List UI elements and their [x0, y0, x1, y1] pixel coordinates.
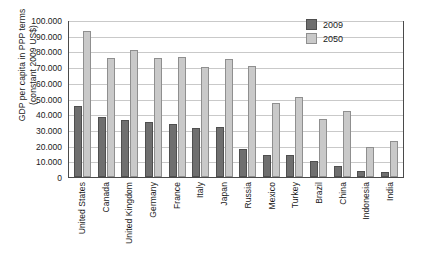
x-axis-tick-label: Italy: [195, 182, 205, 198]
x-axis-tick-label: Japan: [219, 182, 229, 206]
y-axis-tick-20000: 20.000: [36, 142, 62, 152]
x-axis-tick-cell: United Kingdom: [117, 180, 141, 262]
legend-label-2050: 2050: [323, 34, 343, 44]
bar-2050: [272, 103, 280, 177]
bar-2050: [225, 59, 233, 177]
x-axis-tick-label: Mexico: [267, 182, 277, 210]
bar-2009: [74, 106, 82, 177]
bar-2050: [319, 119, 327, 177]
y-axis-tick-50000: 50.000: [36, 95, 62, 105]
bar-2050: [107, 58, 115, 177]
bar-group: [142, 21, 166, 177]
bar-2009: [121, 120, 129, 177]
bar-2050: [201, 67, 209, 177]
x-axis-tick-label: United States: [77, 182, 87, 234]
y-axis-tick-labels: 010.00020.00030.00040.00050.00060.00070.…: [0, 21, 66, 178]
bar-2050: [83, 31, 91, 177]
legend-swatch-2050: [306, 33, 317, 44]
x-axis-tick-cell: Indonesia: [355, 180, 379, 262]
x-axis-tick-cell: Mexico: [260, 180, 284, 262]
x-axis-tick-label: France: [172, 182, 182, 209]
x-axis-tick-label: Germany: [148, 182, 158, 218]
y-axis-tick-40000: 40.000: [36, 110, 62, 120]
bar-2009: [357, 171, 365, 177]
bar-group: [283, 21, 307, 177]
x-axis-tick-label: Brazil: [314, 182, 324, 204]
x-axis-tick-cell: Japan: [212, 180, 236, 262]
bar-2050: [130, 50, 138, 177]
bar-2009: [145, 122, 153, 177]
x-axis-tick-cell: Canada: [94, 180, 118, 262]
bar-2009: [98, 117, 106, 177]
x-axis-tick-cell: Italy: [189, 180, 213, 262]
bar-2050: [178, 57, 186, 177]
bar-2009: [310, 161, 318, 177]
bar-2009: [192, 128, 200, 177]
bar-group: [212, 21, 236, 177]
bar-2050: [366, 147, 374, 177]
x-axis-tick-label: Turkey: [290, 182, 300, 208]
bar-2009: [263, 155, 271, 177]
bar-2009: [381, 172, 389, 177]
bar-2050: [154, 58, 162, 177]
x-axis-tick-label: China: [338, 182, 348, 205]
bar-2050: [248, 66, 256, 177]
gdp-per-capita-bar-chart: GDP per capita in PPP terms (constant 20…: [0, 0, 428, 263]
y-axis-tick-100000: 100.000: [31, 16, 62, 26]
bar-group: [260, 21, 284, 177]
bar-group: [189, 21, 213, 177]
bar-group: [354, 21, 378, 177]
x-axis-tick-label: United Kingdom: [124, 182, 134, 244]
x-axis-tick-label: Canada: [101, 182, 111, 212]
bar-2009: [286, 155, 294, 177]
bar-group: [165, 21, 189, 177]
x-axis-tick-cell: France: [165, 180, 189, 262]
bar-2009: [239, 149, 247, 177]
bar-groups: [69, 21, 403, 177]
y-axis-tick-30000: 30.000: [36, 126, 62, 136]
y-axis-tick-0: 0: [57, 173, 62, 183]
x-axis-tick-labels: United StatesCanadaUnited KingdomGermany…: [68, 180, 404, 262]
y-axis-tick-80000: 80.000: [36, 47, 62, 57]
x-axis-tick-cell: India: [378, 180, 402, 262]
legend-item-2050: 2050: [306, 33, 343, 44]
bar-2009: [169, 124, 177, 177]
bar-group: [236, 21, 260, 177]
bar-2050: [343, 111, 351, 177]
bar-2050: [390, 141, 398, 177]
plot-area: [68, 21, 404, 178]
legend: 2009 2050: [306, 19, 343, 47]
x-axis-tick-cell: China: [331, 180, 355, 262]
legend-swatch-2009: [306, 19, 317, 30]
bar-group: [118, 21, 142, 177]
y-axis-tick-60000: 60.000: [36, 79, 62, 89]
bar-group: [71, 21, 95, 177]
x-axis-tick-label: India: [385, 182, 395, 201]
y-axis-tick-10000: 10.000: [36, 157, 62, 167]
bar-2009: [216, 127, 224, 177]
legend-item-2009: 2009: [306, 19, 343, 30]
y-axis-tick-90000: 90.000: [36, 32, 62, 42]
x-axis-tick-cell: Brazil: [307, 180, 331, 262]
bar-group: [95, 21, 119, 177]
x-axis-tick-label: Indonesia: [361, 182, 371, 220]
x-axis-tick-cell: United States: [70, 180, 94, 262]
legend-label-2009: 2009: [323, 20, 343, 30]
x-axis-tick-cell: Germany: [141, 180, 165, 262]
bar-2009: [334, 166, 342, 177]
x-axis-tick-cell: Russia: [236, 180, 260, 262]
x-axis-tick-label: Russia: [243, 182, 253, 209]
x-axis-tick-cell: Turkey: [283, 180, 307, 262]
bar-2050: [295, 97, 303, 177]
y-axis-tick-70000: 70.000: [36, 63, 62, 73]
bar-group: [378, 21, 402, 177]
